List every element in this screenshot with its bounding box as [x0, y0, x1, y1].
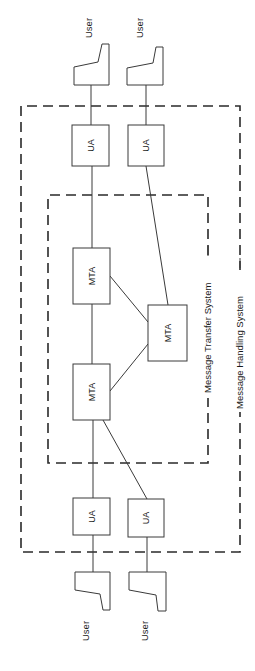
user-label: User	[83, 18, 94, 38]
mhs-label: Message Handling System	[234, 296, 245, 409]
ua-bottom-left: UA	[73, 498, 110, 535]
link-mta-bottom-ua-br	[103, 420, 147, 499]
ua-bottom-right: UA	[128, 499, 164, 537]
ua-label: UA	[86, 139, 96, 152]
mhs-diagram: User User UA UA MTA MTA MTA UA UA User	[0, 0, 255, 671]
terminal-icon	[127, 47, 163, 85]
ua-top-left: UA	[72, 125, 109, 166]
terminal-icon	[74, 44, 109, 85]
mta-label: MTA	[163, 324, 173, 342]
mta-bottom: MTA	[73, 364, 110, 420]
user-label: User	[134, 18, 145, 38]
user-terminal-bottom-left: User	[75, 572, 110, 641]
link-mta-top-mta-right	[110, 276, 148, 322]
terminal-icon	[129, 572, 166, 611]
terminal-icon	[75, 572, 110, 610]
mta-top: MTA	[73, 248, 110, 304]
ua-top-right: UA	[128, 125, 164, 166]
link-ua-tr-mta-right	[146, 166, 168, 305]
user-terminal-bottom-right: User	[129, 572, 166, 641]
user-terminal-top-right: User	[127, 18, 163, 85]
link-mta-bottom-mta-right	[110, 344, 148, 391]
mta-label: MTA	[87, 267, 97, 285]
mts-label: Message Transfer System	[202, 283, 213, 393]
ua-label: UA	[141, 512, 151, 525]
user-terminal-top-left: User	[74, 18, 109, 85]
mta-label: MTA	[87, 383, 97, 401]
ua-label: UA	[87, 510, 97, 523]
mta-right: MTA	[148, 305, 187, 361]
user-label: User	[80, 621, 91, 641]
user-label: User	[139, 621, 150, 641]
ua-label: UA	[141, 139, 151, 152]
